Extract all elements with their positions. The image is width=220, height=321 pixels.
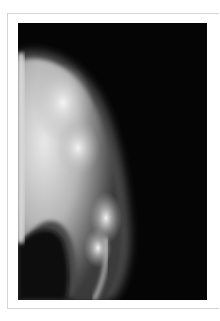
xray-illustration: [18, 23, 207, 300]
xray-image: [18, 23, 207, 300]
